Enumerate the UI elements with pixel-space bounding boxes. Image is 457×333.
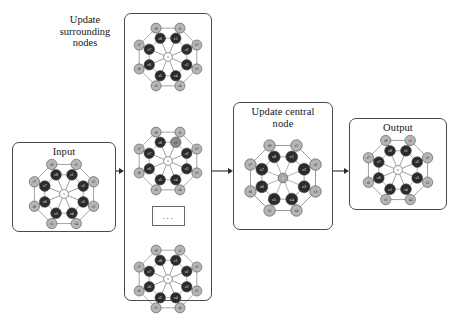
graph-node-center-s: s [164,275,173,284]
graph-node-c8: c8 [155,255,166,266]
graph-node-c5: c5 [155,174,166,185]
graph-node-c4: c4 [170,70,181,81]
graph-node-center-s: s [278,173,288,183]
svg-text:r1: r1 [295,143,298,148]
svg-text:c3: c3 [302,184,306,189]
graph-node-c4: c4 [286,193,298,205]
graph-node-r4: r4 [71,218,81,228]
svg-text:r6: r6 [138,67,141,71]
graph-node-c2: c2 [181,44,192,55]
diagram-canvas: Inputr1r2r3r4r5r6r7r8c1c2c3c4c5c6c7c8sUp… [0,0,457,333]
svg-text:r8: r8 [50,163,53,167]
svg-text:r7: r7 [138,43,141,47]
svg-text:r6: r6 [138,289,141,293]
svg-text:c5: c5 [272,197,276,202]
svg-text:r2: r2 [92,180,95,184]
svg-text:r6: r6 [138,171,141,175]
graph-node-r2: r2 [192,262,202,272]
graph-node-c7: c7 [144,148,155,159]
graph-node-c1: c1 [170,137,181,148]
arrow-input-to-surrounding [116,162,124,180]
graph-node-r5: r5 [151,81,161,91]
svg-text:r2: r2 [195,265,198,269]
svg-text:c6: c6 [148,63,152,67]
graph-node-r3: r3 [88,201,98,211]
svg-text:c5: c5 [158,178,162,182]
graph-node-r6: r6 [363,177,373,187]
graph-node-c6: c6 [373,173,384,184]
graph-node-c7: c7 [373,157,384,168]
stage-title-update-surrounding-nodes: Update surrounding nodes [48,14,122,49]
svg-text:c2: c2 [81,184,85,188]
graph-node-r1: r1 [175,245,185,255]
svg-text:c4: c4 [174,178,178,182]
graph-node-r2: r2 [310,159,321,170]
svg-text:c6: c6 [377,176,381,180]
graph-node-c4: c4 [170,292,181,303]
graph-node-r7: r7 [245,159,256,170]
graph-update-central: r1r2r3r4r5r6r7r8c1c2c3c4c5c6c7c8s [239,130,327,226]
svg-text:c8: c8 [272,154,276,159]
graph-node-center-s: s [60,190,69,199]
graph-node-c4: c4 [401,184,412,195]
graph-node-c8: c8 [385,145,396,156]
svg-text:r4: r4 [178,84,181,88]
svg-text:c7: c7 [377,160,381,164]
graph-node-r7: r7 [363,153,373,163]
graph-node-c4: c4 [170,174,181,185]
graph-node-r1: r1 [71,159,81,169]
graph-node-r6: r6 [134,64,144,74]
graph-node-c6: c6 [144,163,155,174]
svg-text:r1: r1 [409,139,412,143]
svg-text:c7: c7 [148,48,152,52]
graph-node-r1: r1 [175,23,185,33]
graph-node-center-s: s [394,166,403,175]
graph-node-r6: r6 [245,186,256,197]
graph-node-c6: c6 [144,281,155,292]
svg-text:c7: c7 [148,152,152,156]
graph-node-c4: c4 [67,208,78,219]
svg-text:c1: c1 [404,149,408,153]
graph-node-r5: r5 [151,303,161,313]
svg-text:c8: c8 [54,173,58,177]
svg-text:r4: r4 [178,306,181,310]
graph-node-r8: r8 [151,245,161,255]
graph-node-c3: c3 [181,281,192,292]
svg-text:r3: r3 [426,181,429,185]
svg-text:r3: r3 [314,189,317,194]
svg-text:c2: c2 [302,167,306,172]
svg-text:r3: r3 [195,289,198,293]
graph-node-r5: r5 [381,194,391,204]
graph-node-c7: c7 [39,181,50,192]
svg-text:c1: c1 [290,154,294,159]
graph-node-c7: c7 [256,163,268,175]
graph-node-c1: c1 [67,169,78,180]
svg-text:r7: r7 [138,265,141,269]
svg-text:c4: c4 [174,296,178,300]
svg-text:c3: c3 [185,285,189,289]
svg-text:c5: c5 [54,212,58,216]
svg-text:c2: c2 [415,160,419,164]
graph-input: r1r2r3r4r5r6r7r8c1c2c3c4c5c6c7c8s [16,154,112,234]
svg-text:r5: r5 [155,306,158,310]
svg-text:c6: c6 [148,167,152,171]
graph-node-c2: c2 [78,181,89,192]
graph-node-c8: c8 [155,33,166,44]
graph-output: r1r2r3r4r5r6r7r8c1c2c3c4c5c6c7c8s [353,130,443,210]
svg-text:r2: r2 [426,156,429,160]
graph-node-r4: r4 [291,205,302,216]
graph-node-r4: r4 [405,194,415,204]
svg-text:r5: r5 [268,208,271,213]
svg-text:r6: r6 [33,205,36,209]
graph-node-c3: c3 [412,173,423,184]
arrow-central-to-output [333,162,349,180]
graph-node-r2: r2 [192,40,202,50]
graph-node-c6: c6 [256,181,268,193]
svg-text:r7: r7 [33,180,36,184]
svg-text:r7: r7 [367,156,370,160]
graph-node-r5: r5 [47,218,57,228]
graph-node-r1: r1 [405,135,415,145]
graph-surrounding-1: r1r2r3r4r5r6r7r8c1c2c3c4c5c6c7c8s [127,18,209,96]
svg-text:r3: r3 [92,205,95,209]
svg-text:r4: r4 [178,188,181,192]
